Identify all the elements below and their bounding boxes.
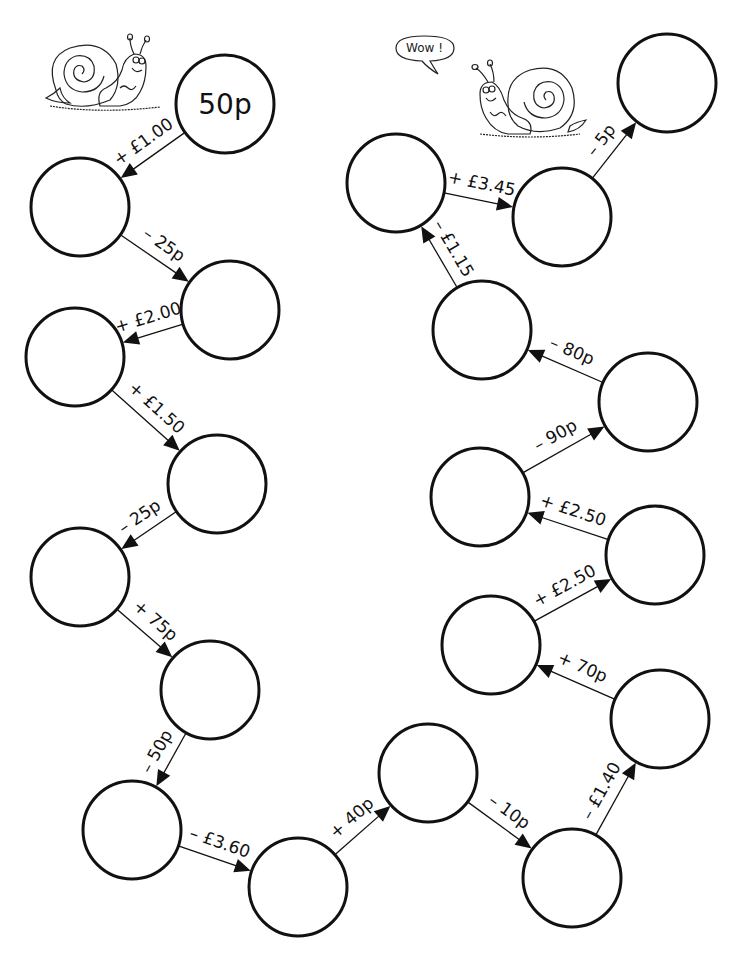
edge-amount-label: + £2.00 xyxy=(112,298,183,337)
answer-circle[interactable] xyxy=(31,158,129,256)
answer-circle[interactable] xyxy=(599,353,697,451)
circle-shape xyxy=(606,506,704,604)
arrow-edge: – 90p xyxy=(523,415,605,473)
answer-circle[interactable] xyxy=(513,168,611,266)
edge-amount-label: + 40p xyxy=(325,793,377,842)
circle-shape xyxy=(31,158,129,256)
arrow-edge: – 25p xyxy=(115,495,177,549)
edge-amount-label: + £1.00 xyxy=(109,113,176,169)
edge-amount-label: + £2.50 xyxy=(538,490,609,530)
answer-circle[interactable] xyxy=(26,308,124,406)
answer-circle[interactable] xyxy=(618,34,716,132)
edge-amount-label: – 25p xyxy=(139,223,189,266)
arrowhead-icon xyxy=(594,579,611,593)
circle-shape xyxy=(83,781,181,879)
arrow-edge: + £1.50 xyxy=(112,377,190,450)
circle-shape xyxy=(618,34,716,132)
answer-circle[interactable] xyxy=(431,448,529,546)
circle-shape xyxy=(379,724,477,822)
edge-amount-label: + 75p xyxy=(130,596,182,645)
arrow-edge: – 5p xyxy=(582,120,636,179)
answer-circle[interactable] xyxy=(433,281,531,379)
arrow-edge: + £2.50 xyxy=(527,490,608,540)
circle-shape xyxy=(513,168,611,266)
arrow-edge: + £1.00 xyxy=(109,113,185,178)
answer-circle[interactable] xyxy=(611,670,709,768)
answer-circle[interactable] xyxy=(442,596,540,694)
edge-amount-label: – £1.40 xyxy=(577,758,625,822)
arrow-edge: – 10p xyxy=(468,790,535,849)
speech-bubble: Wow ! xyxy=(396,36,454,74)
edge-amount-label: – £3.60 xyxy=(187,823,253,862)
start-value-text: 50p xyxy=(198,88,251,121)
arrowhead-icon xyxy=(233,859,250,872)
circle-shape xyxy=(161,641,259,739)
circle-shape xyxy=(599,353,697,451)
arrow-edge: + 70p xyxy=(537,647,615,699)
circle-shape xyxy=(168,435,266,533)
edge-amount-label: – 25p xyxy=(115,495,165,538)
arrowhead-icon xyxy=(621,122,636,139)
circle-shape xyxy=(433,281,531,379)
arrow-edge: + 75p xyxy=(117,596,182,657)
circle-shape xyxy=(523,829,621,927)
edge-amount-label: – 5p xyxy=(582,120,620,160)
answer-circle[interactable] xyxy=(249,838,347,936)
edge-amount-label: – £1.15 xyxy=(429,216,478,280)
edge-amount-label: – 90p xyxy=(530,415,580,455)
arrowhead-icon xyxy=(515,833,532,848)
arrowhead-icon xyxy=(527,511,544,524)
arrowhead-icon xyxy=(587,427,604,441)
arrowhead-icon xyxy=(172,267,189,282)
arrow-edge: – £3.60 xyxy=(178,823,253,873)
edge-amount-label: + 70p xyxy=(555,647,611,686)
circle-shape xyxy=(611,670,709,768)
edge-amount-label: + £2.50 xyxy=(530,560,600,610)
start-value-circle: 50p xyxy=(176,55,274,153)
circle-shape xyxy=(431,448,529,546)
circle-shape xyxy=(181,261,279,359)
answer-circle[interactable] xyxy=(31,528,129,626)
answer-circle[interactable] xyxy=(181,261,279,359)
answer-circle[interactable] xyxy=(83,781,181,879)
arrow-edge: – 50p xyxy=(136,726,186,786)
arrowhead-icon xyxy=(156,769,170,786)
answer-circle[interactable] xyxy=(168,435,266,533)
snail-left-illustration xyxy=(46,34,160,110)
circle-shape xyxy=(31,528,129,626)
edge-amount-label: + £1.50 xyxy=(125,377,189,437)
answer-circle[interactable] xyxy=(606,506,704,604)
circle-shape xyxy=(26,308,124,406)
arrow-edge: – £1.40 xyxy=(577,758,636,835)
circle-shape xyxy=(442,596,540,694)
arrow-edge: – £1.15 xyxy=(421,216,478,287)
speech-bubble-text: Wow ! xyxy=(406,41,443,55)
circle-shape xyxy=(249,838,347,936)
edge-amount-label: – 50p xyxy=(136,726,176,776)
arrowhead-icon xyxy=(622,763,636,780)
answer-circle[interactable] xyxy=(347,134,445,232)
answer-circle[interactable] xyxy=(523,829,621,927)
money-chain-diagram: Wow ! + £1.00– 25p+ £2.00+ £1.50– 25p+ 7… xyxy=(0,0,740,967)
snail-right-illustration: Wow ! xyxy=(396,36,586,137)
answer-circle[interactable] xyxy=(161,641,259,739)
arrow-edge: + 40p xyxy=(325,793,390,855)
arrowhead-icon xyxy=(163,435,180,451)
arrow-edge: – 25p xyxy=(120,223,189,282)
arrow-edge: + £2.00 xyxy=(112,298,183,345)
arrow-edge: + £2.50 xyxy=(530,560,612,621)
edge-amount-label: – 10p xyxy=(485,790,534,833)
edge-amount-label: – 80p xyxy=(547,332,597,369)
answer-circle[interactable] xyxy=(379,724,477,822)
arrow-edge: – 80p xyxy=(528,332,603,382)
arrow-edge: + £3.45 xyxy=(444,167,517,211)
circle-shape xyxy=(347,134,445,232)
